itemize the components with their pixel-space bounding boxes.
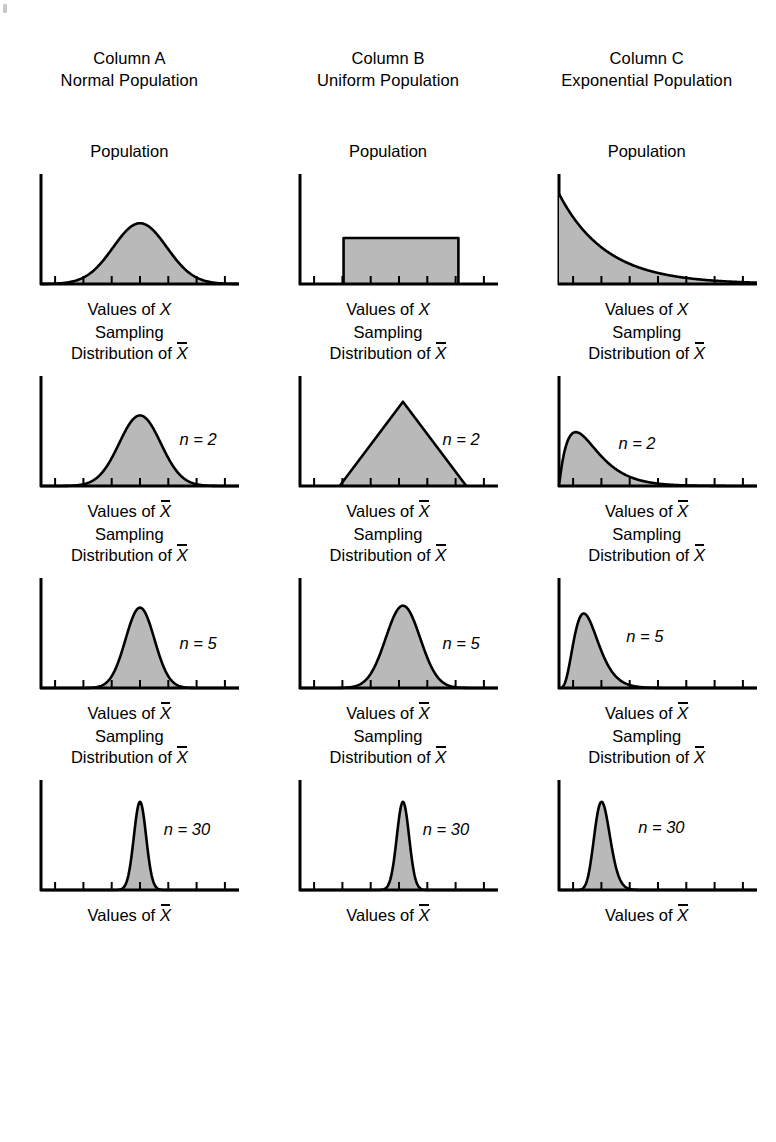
panel-title-line2: Distribution of X (259, 747, 518, 768)
sample-size-label: n = 5 (443, 634, 481, 652)
panel-title-line1: Sampling (517, 322, 776, 343)
distribution-plot-exponential-population (531, 166, 763, 298)
x-bar-symbol: X (435, 343, 446, 364)
panel-title-line1: Sampling (0, 524, 259, 545)
panel-title-line2-text: Distribution of (71, 344, 172, 362)
panel-title-line2: Distribution of X (517, 747, 776, 768)
panel-title-line2-text: Distribution of (330, 546, 431, 564)
distribution-area (559, 194, 757, 284)
x-bar-symbol: X (677, 703, 688, 724)
panel-title-line2-text: Distribution of (71, 546, 172, 564)
column-b-title: Column B (351, 48, 424, 70)
panel-title-line1: Sampling (0, 726, 259, 747)
x-bar-symbol: X (176, 545, 187, 566)
x-bar-symbol: X (160, 905, 171, 926)
column-a-title: Column A (93, 48, 165, 70)
panel-row-n2: Sampling Distribution of X n = 2 Values … (0, 320, 776, 522)
x-bar-symbol: X (677, 501, 688, 522)
distribution-plot-exponential-n5: n = 5 (531, 570, 763, 702)
x-bar-symbol: X (418, 905, 429, 926)
distribution-area (41, 223, 239, 284)
axis-label-prefix: Values of (346, 906, 414, 924)
axis-label-prefix: Values of (88, 704, 156, 722)
x-bar-symbol: X (160, 703, 171, 724)
panel-title-line2-text: Distribution of (71, 748, 172, 766)
sample-size-label: n = 30 (164, 820, 211, 838)
panel-title-line2: Distribution of X (259, 343, 518, 364)
distribution-plot-exponential-n30: n = 30 (531, 772, 763, 904)
column-c-subtitle: Exponential Population (561, 70, 732, 92)
x-bar-symbol: X (176, 747, 187, 768)
axis-label-prefix: Values of (346, 300, 414, 318)
sample-size-label: n = 30 (423, 820, 470, 838)
plot-exponential-n2: n = 2 (517, 368, 776, 500)
panel-row-n30: Sampling Distribution of X n = 30 Values… (0, 724, 776, 926)
panel-title: Sampling Distribution of X (0, 724, 259, 772)
axis-label: Values of X (259, 501, 518, 522)
plot-normal-n30: n = 30 (0, 772, 259, 904)
panel-title: Sampling Distribution of X (0, 320, 259, 368)
axis-label: Values of X (517, 703, 776, 724)
distribution-area (41, 802, 239, 890)
sample-size-label: n = 30 (638, 818, 685, 836)
panel-title: Sampling Distribution of X (259, 522, 518, 570)
distribution-plot-uniform-n30: n = 30 (272, 772, 504, 904)
distribution-area (41, 415, 239, 486)
axis-label: Values of X (259, 905, 518, 926)
axis-label: Values of X (259, 703, 518, 724)
panel-title-line1: Population (608, 142, 686, 160)
panel-a-n5: Sampling Distribution of X n = 5 Values … (0, 522, 259, 724)
panel-title-line1: Sampling (259, 524, 518, 545)
panel-title-line2: Distribution of X (0, 545, 259, 566)
sample-size-label: n = 2 (180, 430, 217, 448)
distribution-plot-normal-n2: n = 2 (13, 368, 245, 500)
panel-title: Sampling Distribution of X (259, 724, 518, 772)
axis-label: Values of X (517, 501, 776, 522)
panel-title-line2: Distribution of X (259, 545, 518, 566)
distribution-plot-normal-n30: n = 30 (13, 772, 245, 904)
panel-title-line2: Distribution of X (517, 545, 776, 566)
column-c-title: Column C (610, 48, 684, 70)
plot-normal-n2: n = 2 (0, 368, 259, 500)
axis-label-prefix: Values of (346, 502, 414, 520)
panel-b-n30: Sampling Distribution of X n = 30 Values… (259, 724, 518, 926)
plot-uniform-population (259, 166, 518, 298)
x-bar-symbol: X (418, 501, 429, 522)
x-bar-symbol: X (694, 343, 705, 364)
x-bar-symbol: X (160, 501, 171, 522)
sample-size-label: n = 2 (618, 434, 655, 452)
panel-title: Sampling Distribution of X (517, 522, 776, 570)
x-bar-symbol: X (694, 545, 705, 566)
panel-a-n2: Sampling Distribution of X n = 2 Values … (0, 320, 259, 522)
page-scan-mark (3, 4, 7, 13)
column-header-a: Column A Normal Population (0, 48, 259, 106)
panel-title-line2-text: Distribution of (330, 748, 431, 766)
panel-title-line1: Population (90, 142, 168, 160)
panel-title: Sampling Distribution of X (0, 522, 259, 570)
axis-label: Values of X (0, 905, 259, 926)
panel-title-line2: Distribution of X (517, 343, 776, 364)
axis-label-prefix: Values of (605, 300, 673, 318)
plot-normal-population (0, 166, 259, 298)
panel-a-n30: Sampling Distribution of X n = 30 Values… (0, 724, 259, 926)
panel-title-line2-text: Distribution of (588, 748, 689, 766)
axis-label: Values of X (0, 501, 259, 522)
panel-title-line2: Distribution of X (0, 747, 259, 768)
plot-normal-n5: n = 5 (0, 570, 259, 702)
axis-label: Values of X (0, 703, 259, 724)
x-bar-symbol: X (418, 703, 429, 724)
panel-title-line2-text: Distribution of (330, 344, 431, 362)
sample-size-label: n = 5 (180, 634, 218, 652)
panel-title-line2-text: Distribution of (588, 546, 689, 564)
column-header-b: Column B Uniform Population (259, 48, 518, 106)
axis-label: Values of X (259, 299, 518, 320)
panel-b-n5: Sampling Distribution of X n = 5 Values … (259, 522, 518, 724)
panel-title: Population (0, 118, 259, 166)
panel-b-n2: Sampling Distribution of X n = 2 Values … (259, 320, 518, 522)
axis-label-variable: X (160, 300, 171, 319)
column-headers: Column A Normal Population Column B Unif… (0, 48, 776, 106)
panel-title-line1: Sampling (259, 322, 518, 343)
axis-label-prefix: Values of (605, 502, 673, 520)
panel-c-n30: Sampling Distribution of X n = 30 Values… (517, 724, 776, 926)
panel-title-line1: Sampling (517, 726, 776, 747)
